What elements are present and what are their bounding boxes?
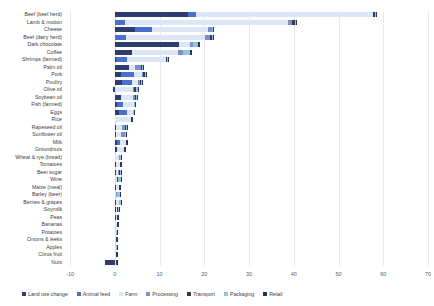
legend-swatch (119, 292, 123, 296)
bar-segment-retail (296, 20, 297, 25)
bar-segment-retail (198, 42, 199, 47)
x-tick-label: 40 (291, 268, 297, 280)
bar-segment-retail (134, 110, 135, 115)
category-label: Eggs (0, 109, 62, 117)
legend-item-retail[interactable]: Retail (263, 291, 282, 297)
bar-segment-farm (127, 57, 166, 62)
category-label: Beef (dairy herd) (0, 34, 62, 42)
bar-segment-packaging (183, 50, 190, 55)
chart-row: Soymilk (70, 206, 428, 214)
category-label: Pork (0, 71, 62, 79)
bar-segment-land-use-change (115, 95, 122, 100)
bar-segment-retail (121, 155, 122, 160)
category-label: Tomatoes (0, 161, 62, 169)
bar-segment-retail (213, 27, 214, 32)
category-label: Soymilk (0, 206, 62, 214)
bar-segment-retail (138, 87, 139, 92)
bar-segment-farm (196, 12, 372, 17)
x-tick-label: 60 (380, 268, 386, 280)
plot-area: Beef (beef herd)Lamb & muttonCheeseBeef … (70, 11, 428, 266)
legend-item-transport[interactable]: Transport (187, 291, 215, 297)
bar-segment-animal-feed (119, 110, 127, 115)
chart-row: Groundnuts (70, 146, 428, 154)
chart-row: Tomatoes (70, 161, 428, 169)
chart-row: Rice (70, 116, 428, 124)
legend-item-processing[interactable]: Processing (146, 291, 178, 297)
category-label: Shrimps (farmed) (0, 56, 62, 64)
category-label: Citrus fruit (0, 251, 62, 259)
chart-row: Barley (beer) (70, 191, 428, 199)
category-label: Potatoes (0, 229, 62, 237)
chart-row: Fish (farmed) (70, 101, 428, 109)
legend-item-land-use-change[interactable]: Land use change (22, 291, 68, 297)
x-axis: -10010203040506070 (70, 268, 428, 280)
legend-swatch (77, 292, 81, 296)
bar-segment-land-use-change (115, 65, 129, 70)
bar-segment-retail (118, 215, 119, 220)
category-label: Apples (0, 244, 62, 252)
x-tick-label: 70 (425, 268, 431, 280)
bar-segment-animal-feed (116, 57, 127, 62)
legend-item-animal-feed[interactable]: Animal feed (77, 291, 110, 297)
bar-segment-farm (125, 20, 288, 25)
bar-segment-retail (117, 237, 118, 242)
legend-swatch (263, 292, 267, 296)
legend-item-farm[interactable]: Farm (119, 291, 137, 297)
bar-segment-retail (118, 222, 119, 227)
chart-row: Beet sugar (70, 169, 428, 177)
bar-segment-retail (117, 245, 118, 250)
chart-row: Soybean oil (70, 94, 428, 102)
bar-segment-animal-feed (135, 27, 152, 32)
chart-row: Nuts (70, 259, 428, 267)
chart-row: Milk (70, 139, 428, 147)
bar-segment-animal-feed (122, 80, 132, 85)
chart-row: Onions & leeks (70, 236, 428, 244)
category-label: Wine (0, 176, 62, 184)
chart-row: Olive oil (70, 86, 428, 94)
category-label: Peas (0, 214, 62, 222)
chart-row: Sunflower oil (70, 131, 428, 139)
bar-segment-land-use-change (115, 72, 122, 77)
bar-segment-retail (121, 200, 122, 205)
category-label: Berries & grapes (0, 199, 62, 207)
bar-segment-animal-feed (121, 72, 134, 77)
x-tick-label: 10 (157, 268, 163, 280)
bar-segment-animal-feed (115, 35, 126, 40)
chart-row: Shrimps (farmed) (70, 56, 428, 64)
bar-segment-retail (121, 170, 122, 175)
bar-segment-retail (146, 72, 147, 77)
legend-label: Land use change (28, 291, 68, 297)
bar-segment-retail (168, 57, 169, 62)
chart-row: Coffee (70, 49, 428, 57)
bar-segment-farm (132, 50, 179, 55)
bar-segment-animal-feed (115, 20, 126, 25)
greenhouse-gas-emissions-chart: Beef (beef herd)Lamb & muttonCheeseBeef … (0, 0, 434, 306)
legend-item-packaging[interactable]: Packaging (224, 291, 254, 297)
bar-segment-farm (115, 87, 133, 92)
category-label: Beef (beef herd) (0, 11, 62, 19)
chart-row: Palm oil (70, 64, 428, 72)
category-label: Nuts (0, 259, 62, 267)
legend-label: Packaging (230, 291, 254, 297)
legend-label: Processing (152, 291, 178, 297)
category-label: Bananas (0, 221, 62, 229)
chart-row: Dark chocolate (70, 41, 428, 49)
category-label: Maize (meal) (0, 184, 62, 192)
bar-segment-land-use-change (115, 12, 188, 17)
category-label: Olive oil (0, 86, 62, 94)
category-label: Coffee (0, 49, 62, 57)
chart-row: Potatoes (70, 229, 428, 237)
chart-row: Peas (70, 214, 428, 222)
legend-swatch (146, 292, 150, 296)
bar-segment-retail (120, 185, 121, 190)
bar-segment-farm (121, 95, 132, 100)
category-label: Fish (farmed) (0, 101, 62, 109)
bar-segment-farm (126, 35, 205, 40)
legend-swatch (224, 292, 228, 296)
category-label: Cheese (0, 26, 62, 34)
bar-segment-land-use-change (115, 27, 135, 32)
bar-segment-land-use-change (115, 50, 132, 55)
chart-row: Cheese (70, 26, 428, 34)
bar-segment-retail (121, 162, 122, 167)
chart-row: Wine (70, 176, 428, 184)
